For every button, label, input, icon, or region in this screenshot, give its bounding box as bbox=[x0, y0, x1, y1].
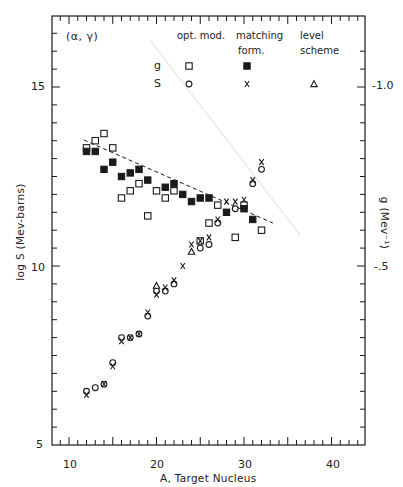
plot-border bbox=[52, 16, 365, 445]
filled-square-marker bbox=[197, 195, 203, 201]
x-marker bbox=[154, 292, 158, 298]
x-marker bbox=[216, 216, 220, 222]
filled-square-marker bbox=[244, 63, 250, 69]
series-s-level-scheme bbox=[153, 248, 194, 288]
series-g-matching-form- bbox=[83, 148, 256, 222]
filled-square-marker bbox=[110, 159, 116, 165]
filled-square-marker bbox=[127, 170, 133, 176]
x-marker bbox=[146, 310, 150, 316]
open-square-marker bbox=[110, 145, 116, 151]
scan-artifact-line bbox=[150, 40, 300, 235]
open-square-marker bbox=[92, 138, 98, 144]
open-circle-marker bbox=[171, 281, 177, 287]
open-square-marker bbox=[153, 188, 159, 194]
y-tick-15: 15 bbox=[31, 80, 45, 93]
legend-row-s: S bbox=[154, 77, 161, 90]
open-square-marker bbox=[101, 130, 107, 136]
open-circle-marker bbox=[119, 335, 125, 341]
legend-symbols bbox=[186, 63, 317, 87]
chart-canvas bbox=[0, 0, 403, 487]
filled-square-marker bbox=[180, 191, 186, 197]
y-right-tick-neg1: -1.0 bbox=[372, 79, 393, 92]
data-points bbox=[83, 130, 264, 398]
open-circle-marker bbox=[110, 360, 116, 366]
x-marker bbox=[84, 392, 88, 398]
x-marker bbox=[233, 199, 237, 205]
open-square-marker bbox=[145, 213, 151, 219]
chart-title: (α, γ) bbox=[66, 30, 98, 43]
open-square-marker bbox=[215, 202, 221, 208]
legend-col-matching: matching bbox=[236, 30, 283, 41]
y-axis-title-left: log S (Mev-barns) bbox=[14, 172, 26, 292]
open-circle-marker bbox=[259, 166, 265, 172]
filled-square-marker bbox=[223, 209, 229, 215]
legend-col-level-2: scheme bbox=[300, 45, 339, 56]
filled-square-marker bbox=[171, 180, 177, 186]
open-square-marker bbox=[171, 188, 177, 194]
open-square-marker bbox=[162, 195, 168, 201]
axis-ticks bbox=[52, 16, 365, 445]
x-marker bbox=[128, 335, 132, 341]
x-marker bbox=[137, 331, 141, 337]
x-marker bbox=[189, 242, 193, 248]
filled-square-marker bbox=[83, 148, 89, 154]
open-square-marker bbox=[127, 188, 133, 194]
y-tick-5: 5 bbox=[36, 438, 43, 451]
x-tick-40: 40 bbox=[326, 458, 340, 471]
open-triangle-marker bbox=[188, 248, 194, 254]
open-circle-marker bbox=[186, 81, 192, 87]
filled-square-marker bbox=[250, 216, 256, 222]
y-axis-title-right: g (Mev⁻¹) bbox=[379, 183, 391, 263]
filled-square-marker bbox=[101, 166, 107, 172]
filled-square-marker bbox=[206, 195, 212, 201]
series-s-matching-form- bbox=[84, 159, 263, 398]
filled-square-marker bbox=[188, 198, 194, 204]
x-marker bbox=[251, 177, 255, 183]
open-circle-marker bbox=[145, 313, 151, 319]
filled-square-marker bbox=[92, 148, 98, 154]
x-marker bbox=[111, 363, 115, 369]
filled-square-marker bbox=[162, 184, 168, 190]
open-circle-marker bbox=[206, 242, 212, 248]
x-marker bbox=[163, 284, 167, 290]
open-triangle-marker bbox=[311, 81, 317, 87]
open-square-marker bbox=[186, 63, 192, 69]
open-circle-marker bbox=[154, 288, 160, 294]
open-square-marker bbox=[118, 195, 124, 201]
x-marker bbox=[245, 81, 249, 87]
filled-square-marker bbox=[136, 166, 142, 172]
scan-artifact-line bbox=[150, 40, 300, 235]
open-circle-marker bbox=[232, 206, 238, 212]
legend-col-matching-2: form. bbox=[238, 45, 265, 56]
open-square-marker bbox=[258, 227, 264, 233]
open-circle-marker bbox=[250, 181, 256, 187]
filled-square-marker bbox=[145, 177, 151, 183]
x-axis-title: A, Target Nucleus bbox=[160, 472, 257, 484]
filled-square-marker bbox=[241, 206, 247, 212]
x-marker bbox=[119, 338, 123, 344]
x-marker bbox=[207, 234, 211, 240]
x-marker bbox=[172, 277, 176, 283]
open-square-marker bbox=[232, 234, 238, 240]
legend-row-g: g bbox=[154, 59, 161, 72]
x-marker bbox=[102, 381, 106, 387]
legend-col-level: level bbox=[300, 30, 324, 41]
open-circle-marker bbox=[197, 245, 203, 251]
y-tick-10: 10 bbox=[31, 261, 45, 274]
plot-frame bbox=[52, 16, 365, 445]
open-circle-marker bbox=[162, 288, 168, 294]
open-circle-marker bbox=[84, 388, 90, 394]
open-circle-marker bbox=[92, 385, 98, 391]
x-tick-10: 10 bbox=[63, 458, 77, 471]
x-tick-20: 20 bbox=[150, 458, 164, 471]
x-marker bbox=[224, 199, 228, 205]
open-square-marker bbox=[206, 220, 212, 226]
open-triangle-marker bbox=[153, 282, 159, 288]
x-tick-30: 30 bbox=[238, 458, 252, 471]
filled-square-marker bbox=[118, 173, 124, 179]
x-marker bbox=[181, 263, 185, 269]
open-circle-marker bbox=[215, 220, 221, 226]
open-square-marker bbox=[136, 180, 142, 186]
x-marker bbox=[259, 159, 263, 165]
legend-col-opt-mod: opt. mod. bbox=[177, 30, 225, 41]
